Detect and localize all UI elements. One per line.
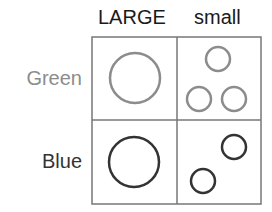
- blue-small-circle: [191, 169, 215, 193]
- blue-large-circle: [109, 137, 159, 187]
- blue-small-circle: [222, 135, 246, 159]
- matrix-grid: [0, 0, 272, 212]
- green-large-circle: [110, 53, 160, 103]
- green-small-circle: [187, 87, 211, 111]
- green-small-circle: [222, 87, 246, 111]
- green-small-circle: [206, 47, 230, 71]
